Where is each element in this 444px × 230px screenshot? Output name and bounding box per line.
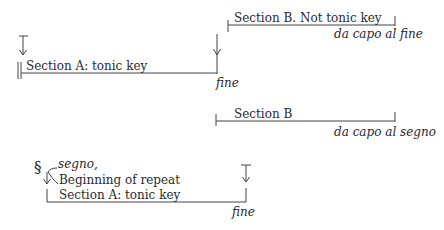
section-b2-label: Section B: [234, 107, 292, 121]
form-1-section-b: Section B. Not tonic key da capo al fine: [228, 11, 423, 41]
section-a-label: Section A: tonic key: [26, 59, 148, 73]
form-2-section-b: Section B da capo al segno: [216, 107, 436, 139]
section-a2-label: Section A: tonic key: [59, 188, 181, 202]
beginning-of-repeat-label: Beginning of repeat: [59, 173, 180, 187]
segno-label: segno,: [58, 157, 98, 171]
section-a2-fine-label: fine: [231, 205, 255, 219]
segno-sign-icon: §: [34, 158, 42, 176]
da-capo-al-segno-label: da capo al segno: [334, 125, 436, 139]
segno-bracket-curve: [48, 168, 58, 184]
musical-form-diagram: Section A: tonic key fine Section B. Not…: [0, 0, 444, 230]
section-a-fine-label: fine: [215, 76, 239, 90]
section-b-label: Section B. Not tonic key: [234, 11, 382, 25]
form-2-section-a: § segno, Beginning of repeat Section A: …: [34, 157, 255, 219]
da-capo-al-fine-label: da capo al fine: [334, 27, 423, 41]
form-1-section-a: Section A: tonic key fine: [18, 34, 239, 90]
